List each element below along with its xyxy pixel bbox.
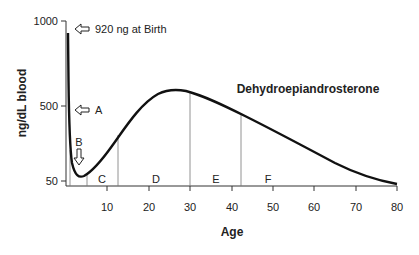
region-d-label: D xyxy=(152,173,160,185)
a-arrow-icon xyxy=(75,105,89,115)
b-arrow-icon xyxy=(74,149,84,165)
y-tick-1000: 1000 xyxy=(34,15,58,27)
x-tick-20: 20 xyxy=(143,201,155,213)
annotation-b: B xyxy=(75,136,82,148)
region-f-label: F xyxy=(265,173,272,185)
region-e-label: E xyxy=(212,173,219,185)
birth-annotation: 920 ng at Birth xyxy=(95,23,167,35)
dhea-curve xyxy=(68,33,397,184)
x-tick-70: 70 xyxy=(350,201,362,213)
x-tick-40: 40 xyxy=(226,201,238,213)
y-tick-50: 50 xyxy=(46,175,58,187)
birth-arrow-icon xyxy=(75,24,89,34)
chart-title: Dehydroepiandrosterone xyxy=(237,82,380,96)
x-tick-50: 50 xyxy=(267,201,279,213)
x-tick-60: 60 xyxy=(308,201,320,213)
y-axis-label: ng/dL blood xyxy=(15,69,29,137)
y-ticks: 1000 500 50 xyxy=(34,15,66,187)
annotation-a: A xyxy=(95,104,103,116)
x-ticks xyxy=(107,186,397,191)
x-tick-80: 80 xyxy=(391,201,403,213)
x-axis-label: Age xyxy=(221,225,244,239)
dhea-chart: 1000 500 50 10 20 30 40 50 60 70 80 Age … xyxy=(0,0,419,255)
x-tick-30: 30 xyxy=(184,201,196,213)
region-c-label: C xyxy=(98,173,106,185)
y-tick-500: 500 xyxy=(40,100,58,112)
x-tick-10: 10 xyxy=(101,201,113,213)
